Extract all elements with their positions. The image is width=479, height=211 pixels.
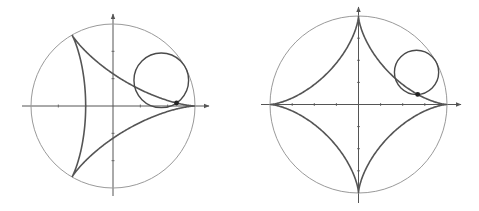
hypocycloid-figure (0, 0, 479, 211)
tracing-point (415, 92, 420, 97)
rolling-circle (134, 53, 189, 108)
rolling-circle (394, 50, 438, 94)
deltoid-panel (22, 14, 209, 196)
tracing-point (174, 101, 179, 106)
astroid-panel (261, 7, 461, 203)
